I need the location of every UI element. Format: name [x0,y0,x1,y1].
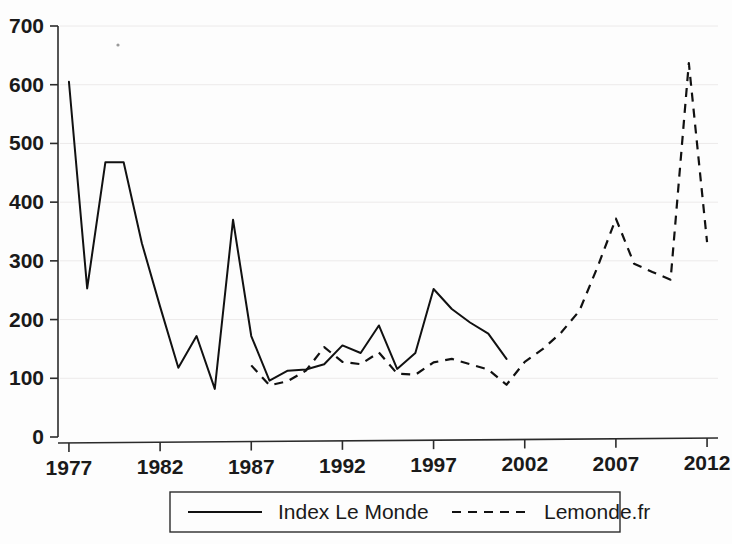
x-tick-label-1977: 1977 [46,456,93,479]
x-axis-line [58,438,718,443]
x-tick-label-2012: 2012 [684,451,731,474]
x-tick-label-1997: 1997 [410,453,457,476]
y-tick-label-600: 600 [9,73,44,96]
y-tick-label-500: 500 [9,131,44,154]
y-tick-label-100: 100 [9,366,44,389]
y-axis-ticks [50,26,58,437]
scan-speck [116,43,119,46]
y-tick-label-200: 200 [9,308,44,331]
legend-label-index-le-monde: Index Le Monde [278,500,429,523]
chart-figure: 0100200300400500600700 19771982198719921… [0,0,732,544]
x-tick-label-1992: 1992 [319,454,366,477]
line-chart-canvas: 0100200300400500600700 19771982198719921… [0,0,732,544]
axes-group [58,26,718,443]
x-axis-tick-labels: 19771982198719921997200220072012 [46,451,731,479]
x-tick-label-1982: 1982 [137,455,184,478]
y-tick-label-400: 400 [9,190,44,213]
series-line-lemonde-fr [251,63,707,385]
x-tick-label-2007: 2007 [593,452,640,475]
x-tick-label-2002: 2002 [501,452,548,475]
gridlines-group [60,26,718,378]
y-tick-label-700: 700 [9,14,44,37]
x-tick-label-1987: 1987 [228,455,275,478]
chart-legend: Index Le Monde Lemonde.fr [170,492,650,532]
y-tick-label-300: 300 [9,249,44,272]
y-tick-label-0: 0 [32,425,44,448]
y-axis-tick-labels: 0100200300400500600700 [9,14,44,448]
series-line-index-le-monde [69,82,507,389]
legend-label-lemonde-fr: Lemonde.fr [544,500,650,523]
